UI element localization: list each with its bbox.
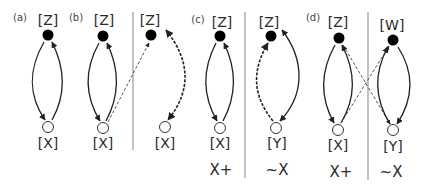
panel-tag-b: (b) — [69, 13, 83, 23]
open-node — [160, 122, 171, 133]
open-node — [333, 125, 344, 136]
filled-node — [98, 31, 109, 42]
filled-node — [334, 33, 345, 44]
node-label-b2-z: [Z] — [140, 13, 161, 27]
node-label-a-x: [X] — [38, 136, 59, 150]
edge-arrow — [106, 43, 117, 121]
panel-dividers — [133, 12, 368, 180]
nodes — [43, 30, 399, 136]
panel-tag-d: (d) — [306, 13, 320, 23]
open-node — [43, 122, 54, 133]
edge-arrow — [166, 30, 185, 120]
condition-label-c-cond: X+ — [210, 163, 233, 178]
node-label-d2-w: [W] — [380, 18, 405, 32]
edge-arrow — [397, 47, 410, 124]
open-node — [98, 123, 109, 134]
edges — [32, 30, 410, 124]
node-label-c2-z: [Z] — [259, 15, 280, 29]
edge-arrow — [378, 47, 390, 124]
node-label-a-z: [Z] — [38, 13, 59, 27]
edge-arrow — [52, 42, 63, 120]
causal-diagram-figure: (a)(b)(c)(d)[Z][X][Z][X][Z][X][Z][X][Z][… — [0, 0, 436, 184]
filled-node — [215, 31, 226, 42]
condition-label-d-cond: X+ — [330, 165, 353, 180]
open-node — [271, 123, 282, 134]
filled-node — [388, 35, 399, 46]
node-label-c2-y: [Y] — [267, 136, 286, 150]
edge-arrow — [108, 43, 149, 122]
edge-arrow — [88, 43, 100, 121]
node-label-d-x: [X] — [328, 138, 349, 152]
edge-arrow — [223, 43, 234, 121]
condition-label-d2-cond: ~X — [380, 165, 403, 180]
edge-arrow — [206, 43, 217, 121]
condition-label-c2-cond: ~X — [266, 163, 289, 178]
edge-arrow — [257, 43, 273, 121]
edge-arrow — [32, 42, 45, 120]
open-node — [388, 125, 399, 136]
edge-arrow — [280, 30, 299, 121]
node-label-b-z: [Z] — [94, 13, 115, 27]
panel-tag-c: (c) — [191, 15, 204, 25]
filled-node — [43, 30, 54, 41]
node-label-c-z: [Z] — [212, 15, 233, 29]
node-label-b-x: [X] — [93, 136, 114, 150]
edge-arrow — [341, 45, 352, 123]
node-label-c-x: [X] — [210, 136, 231, 150]
panel-tag-a: (a) — [13, 13, 27, 23]
filled-node — [146, 30, 157, 41]
filled-node — [266, 31, 277, 42]
node-label-d-z: [Z] — [328, 15, 349, 29]
open-node — [215, 123, 226, 134]
node-label-b2-x: [X] — [155, 136, 176, 150]
edge-arrow — [324, 45, 335, 123]
node-label-d2-y: [Y] — [383, 139, 402, 153]
